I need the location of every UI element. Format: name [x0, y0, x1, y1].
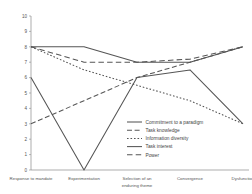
chart-canvas: 012345678910 Response to mandateExperime… — [0, 0, 252, 194]
legend-label: Task knowledge — [146, 128, 180, 133]
y-tick-label: 2 — [24, 137, 27, 142]
legend-label: Task interest — [146, 144, 174, 149]
x-tick-label: Dysfunction — [232, 176, 252, 181]
legend-label: Information diversity — [146, 136, 190, 141]
y-tick-label: 6 — [24, 75, 27, 80]
y-tick-label: 0 — [24, 168, 27, 173]
y-tick-label: 3 — [24, 122, 27, 127]
y-tick-label: 10 — [22, 14, 28, 19]
x-tick-label: Selection of an — [122, 176, 152, 181]
y-tick-label: 9 — [24, 29, 27, 34]
line-chart: 012345678910 Response to mandateExperime… — [0, 0, 252, 194]
x-tick-label: Convergence — [177, 176, 204, 181]
y-tick-label: 1 — [24, 152, 27, 157]
x-tick-label-line2: enduring theme — [122, 183, 153, 188]
y-tick-label: 7 — [24, 60, 27, 65]
x-tick-label: Experimentation — [68, 176, 100, 181]
x-tick-label: Response to mandate — [10, 176, 54, 181]
legend-label: Power — [146, 153, 160, 158]
y-tick-label: 5 — [24, 91, 27, 96]
y-tick-label: 4 — [24, 106, 27, 111]
legend-label: Commitment to a paradigm — [146, 120, 204, 125]
y-tick-label: 8 — [24, 45, 27, 50]
